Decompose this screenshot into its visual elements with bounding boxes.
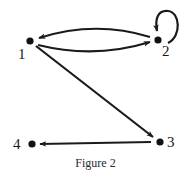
node-3 (156, 138, 163, 145)
figure-caption: Figure 2 (0, 157, 191, 169)
edge-2-to-1 (39, 29, 150, 38)
node-4-label: 4 (13, 137, 21, 152)
node-2-label: 2 (162, 44, 170, 59)
edge-3-to-4 (40, 142, 151, 144)
node-2 (154, 36, 161, 43)
edge-1-to-3 (36, 46, 153, 137)
edge-1-to-2 (38, 42, 150, 51)
node-4 (28, 140, 35, 147)
node-1-label: 1 (18, 47, 26, 62)
node-1 (26, 37, 33, 44)
node-3-label: 3 (167, 135, 175, 150)
directed-graph (0, 0, 191, 180)
